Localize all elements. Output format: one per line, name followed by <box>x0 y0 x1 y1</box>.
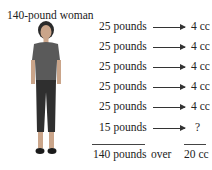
weight-label: 25 pounds <box>99 60 147 72</box>
total-connector: over <box>151 148 171 160</box>
arrow-right-icon <box>153 47 185 48</box>
arrow-right-icon <box>153 27 185 28</box>
sum-line-right <box>184 144 206 145</box>
total-volume: 20 cc <box>184 148 209 160</box>
arrow-right-icon <box>153 107 185 108</box>
weight-label: 15 pounds <box>99 121 147 133</box>
sum-line-left <box>92 144 145 145</box>
arrow-right-icon <box>153 87 185 88</box>
total-weight: 140 pounds <box>93 148 146 160</box>
volume-label: ? <box>195 121 200 133</box>
arrow-right-icon <box>153 67 185 68</box>
volume-label: 4 cc <box>191 40 210 52</box>
weight-label: 25 pounds <box>99 80 147 92</box>
weight-label: 25 pounds <box>99 20 147 32</box>
weight-label: 25 pounds <box>99 40 147 52</box>
volume-label: 4 cc <box>191 60 210 72</box>
volume-label: 4 cc <box>191 20 210 32</box>
volume-label: 4 cc <box>191 100 210 112</box>
woman-figure-icon <box>28 20 64 160</box>
weight-label: 25 pounds <box>99 100 147 112</box>
volume-label: 4 cc <box>191 80 210 92</box>
arrow-right-icon <box>153 128 185 129</box>
